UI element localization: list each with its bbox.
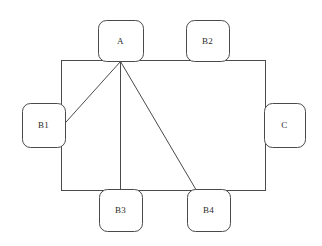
diagram-svg bbox=[0, 0, 322, 246]
table-rectangle bbox=[62, 61, 266, 191]
node-box-b4[interactable] bbox=[188, 190, 231, 232]
node-box-b2[interactable] bbox=[187, 21, 230, 62]
connector-a-to-b4 bbox=[121, 62, 197, 191]
node-box-c[interactable] bbox=[265, 104, 306, 148]
node-box-a[interactable] bbox=[99, 21, 144, 62]
diagram-canvas: AB2B1CB3B4 bbox=[0, 0, 322, 246]
connector-a-to-b1 bbox=[58, 62, 121, 132]
node-box-b3[interactable] bbox=[100, 190, 143, 232]
node-box-b1[interactable] bbox=[23, 104, 66, 148]
